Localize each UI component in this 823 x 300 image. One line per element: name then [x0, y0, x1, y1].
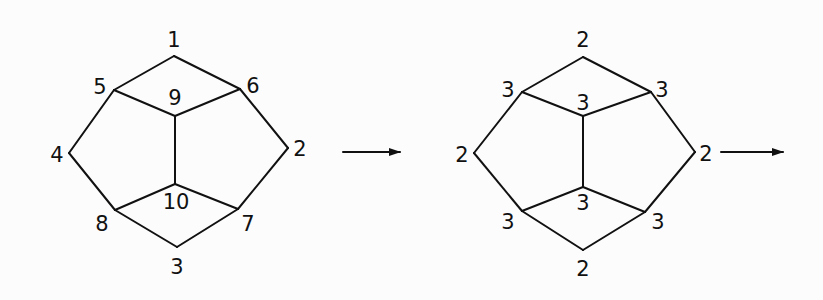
vertex-label: 2	[455, 143, 468, 167]
graph-edge	[583, 187, 645, 212]
graph-edge	[645, 152, 695, 212]
vertex-label: 2	[576, 28, 589, 52]
graph-edge	[522, 92, 583, 116]
graph-edge	[177, 209, 238, 247]
graph-transformation-diagram: 123456789102333223332	[0, 0, 823, 300]
vertex-label: 7	[241, 212, 254, 236]
vertex-label: 3	[501, 210, 514, 234]
vertex-label: 3	[655, 78, 668, 102]
graph-edge	[69, 90, 114, 153]
vertex-label: 10	[163, 190, 190, 214]
vertex-label: 3	[170, 255, 183, 279]
vertex-label: 3	[651, 210, 664, 234]
graph-edge	[522, 57, 583, 92]
diagram-canvas: 123456789102333223332	[0, 0, 823, 300]
graph-edge	[69, 153, 115, 210]
vertex-label: 2	[576, 257, 589, 281]
graph-edge	[238, 148, 288, 209]
vertex-label: 6	[246, 74, 259, 98]
graph-edge	[114, 90, 175, 116]
vertex-label: 5	[93, 75, 106, 99]
graph-edge	[474, 153, 522, 211]
labels-layer: 123456789102333223332	[50, 28, 712, 281]
graph-edge	[522, 211, 583, 250]
vertex-label: 2	[293, 137, 306, 161]
vertex-label: 3	[501, 78, 514, 102]
graph-edge	[522, 187, 583, 211]
vertex-label: 1	[167, 28, 180, 52]
graph-edge	[583, 92, 651, 116]
graph-edge	[175, 89, 240, 116]
vertex-label: 3	[576, 191, 589, 215]
graph-edge	[583, 212, 645, 250]
vertex-label: 3	[576, 91, 589, 115]
graph-edge	[115, 210, 177, 247]
graph-edge	[583, 57, 651, 92]
vertex-label: 9	[168, 86, 181, 110]
graph-edge	[474, 92, 522, 153]
graph-edge	[174, 56, 240, 89]
vertex-label: 4	[50, 143, 63, 167]
vertex-label: 8	[95, 212, 108, 236]
graph-edge	[114, 56, 174, 90]
vertex-label: 2	[699, 142, 712, 166]
